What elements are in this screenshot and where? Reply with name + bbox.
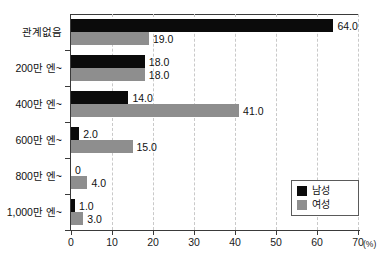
bar-chart: 010203040506070 (%) 관계없음200만 엔~400만 엔~60… xyxy=(0,0,392,257)
category-label: 1,000만 엔~ xyxy=(7,206,62,218)
legend-label-male: 남성 xyxy=(312,185,330,197)
bar-value-label: 19.0 xyxy=(153,33,173,45)
bar-female xyxy=(71,176,87,189)
bar-value-label: 2.0 xyxy=(83,128,98,140)
legend-swatch-female-icon xyxy=(297,200,307,210)
y-tick-mark xyxy=(65,86,70,87)
x-tick-mark xyxy=(153,230,154,235)
bar-male xyxy=(71,19,333,32)
x-tick-mark xyxy=(235,230,236,235)
bar-value-label: 18.0 xyxy=(149,69,169,81)
y-tick-mark xyxy=(65,122,70,123)
x-tick-label: 60 xyxy=(311,236,323,248)
gridline xyxy=(194,14,195,230)
x-tick-mark xyxy=(276,230,277,235)
legend-label-female: 여성 xyxy=(312,199,330,211)
legend-item-male: 남성 xyxy=(297,184,353,198)
bar-female xyxy=(71,140,133,153)
category-label: 800만 엔~ xyxy=(15,170,62,182)
x-tick-label: 50 xyxy=(270,236,282,248)
bar-female xyxy=(71,68,145,81)
x-axis-unit-label: (%) xyxy=(363,239,376,249)
bar-value-label: 15.0 xyxy=(137,141,157,153)
gridline xyxy=(153,14,154,230)
bar-value-label: 4.0 xyxy=(91,177,106,189)
bar-value-label: 64.0 xyxy=(337,20,357,32)
bar-female xyxy=(71,104,239,117)
category-label: 600만 엔~ xyxy=(15,134,62,146)
x-tick-mark xyxy=(71,230,72,235)
legend-swatch-male-icon xyxy=(297,186,307,196)
bar-female xyxy=(71,212,83,225)
gridline xyxy=(235,14,236,230)
x-tick-mark xyxy=(317,230,318,235)
bar-value-label: 1.0 xyxy=(79,200,94,212)
bar-value-label: 41.0 xyxy=(243,105,263,117)
x-tick-label: 20 xyxy=(147,236,159,248)
category-label: 400만 엔~ xyxy=(15,98,62,110)
bar-value-label: 14.0 xyxy=(132,92,152,104)
bar-male xyxy=(71,127,79,140)
bar-female xyxy=(71,32,149,45)
x-tick-mark xyxy=(358,230,359,235)
y-tick-mark xyxy=(65,194,70,195)
bar-value-label: 3.0 xyxy=(87,213,102,225)
bar-male xyxy=(71,199,75,212)
x-tick-label: 30 xyxy=(188,236,200,248)
bar-male xyxy=(71,55,145,68)
bar-male xyxy=(71,91,128,104)
x-tick-mark xyxy=(112,230,113,235)
y-tick-mark xyxy=(65,230,70,231)
legend-item-female: 여성 xyxy=(297,198,353,212)
bar-value-label: 0 xyxy=(75,164,81,176)
category-label: 200만 엔~ xyxy=(15,62,62,74)
gridline xyxy=(112,14,113,230)
x-tick-mark xyxy=(194,230,195,235)
x-tick-label: 0 xyxy=(68,236,74,248)
y-tick-mark xyxy=(65,158,70,159)
bar-value-label: 18.0 xyxy=(149,56,169,68)
y-tick-mark xyxy=(65,50,70,51)
x-tick-label: 10 xyxy=(106,236,118,248)
category-label: 관계없음 xyxy=(22,26,62,38)
legend: 남성 여성 xyxy=(291,180,359,216)
x-tick-label: 40 xyxy=(229,236,241,248)
gridline xyxy=(276,14,277,230)
